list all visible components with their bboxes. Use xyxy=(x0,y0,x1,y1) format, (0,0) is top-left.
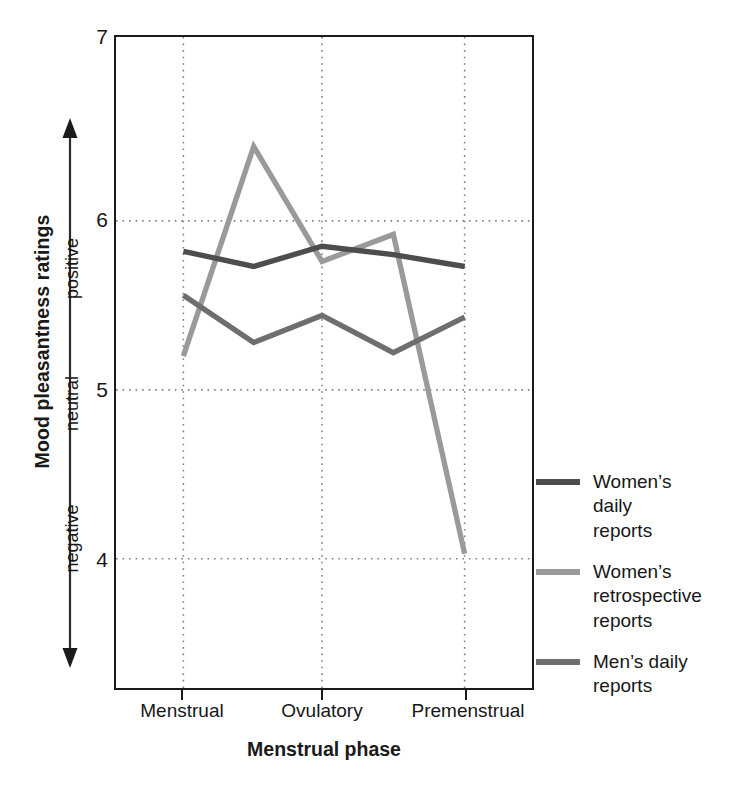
y-tick-label-7: 7 xyxy=(78,26,108,47)
y-axis-title: Mood pleasantness ratings xyxy=(31,212,54,472)
series-line xyxy=(183,147,464,554)
legend-item-womens-retrospective-reports[interactable]: Women’s retrospective reports xyxy=(536,560,741,633)
valence-label-negative: negative xyxy=(62,464,83,614)
series-line xyxy=(183,295,464,352)
legend-item-mens-daily-reports[interactable]: Men’s daily reports xyxy=(536,650,741,699)
horizontal-gridlines xyxy=(116,221,532,559)
plot-area xyxy=(114,35,534,690)
valence-label-neutral: neutral xyxy=(62,329,83,479)
plot-canvas xyxy=(116,37,532,688)
legend-swatch-icon xyxy=(536,479,580,485)
x-tick-label-ovulatory: Ovulatory xyxy=(281,700,362,722)
legend-label: Women’s retrospective reports xyxy=(593,560,702,633)
chart-legend: Women’s daily reports Women’s retrospect… xyxy=(536,470,741,716)
legend-item-womens-daily-reports[interactable]: Women’s daily reports xyxy=(536,470,741,543)
legend-swatch-icon xyxy=(536,659,580,665)
x-tick-label-menstrual: Menstrual xyxy=(140,700,223,722)
y-tick-label-6: 6 xyxy=(78,209,108,230)
x-axis-title: Menstrual phase xyxy=(114,738,534,761)
y-tick-label-5: 5 xyxy=(78,379,108,400)
y-tick-label-4: 4 xyxy=(78,549,108,570)
legend-label: Women’s daily reports xyxy=(593,470,672,543)
data-series-layer xyxy=(183,147,464,554)
legend-swatch-icon xyxy=(536,569,580,575)
chart-figure: Mood pleasantness ratings positive neutr… xyxy=(0,0,747,787)
legend-label: Men’s daily reports xyxy=(593,650,688,699)
x-tick-label-premenstrual: Premenstrual xyxy=(412,700,525,722)
